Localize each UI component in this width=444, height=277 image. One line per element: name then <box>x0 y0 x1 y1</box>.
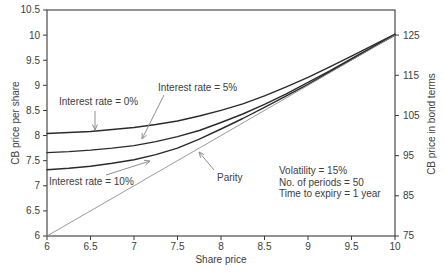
y-left-tick-label: 6 <box>34 230 40 241</box>
x-tick-label: 9.5 <box>345 241 359 252</box>
x-tick-label: 7.5 <box>171 241 185 252</box>
y-right-tick-label: 95 <box>403 150 415 161</box>
x-tick-label: 10 <box>389 241 401 252</box>
x-axis-title: Share price <box>195 254 246 265</box>
convertible-bond-price-chart: 66.577.588.599.51066.577.588.599.51010.5… <box>0 0 444 277</box>
y-axis-title-right: CB price in bond terms <box>426 73 437 175</box>
annotation-interest-rate-10: Interest rate = 10% <box>49 176 134 187</box>
y-left-tick-label: 7.5 <box>26 155 40 166</box>
x-tick-label: 9 <box>305 241 311 252</box>
series-line-interest-rate-5- <box>47 35 395 153</box>
y-left-tick-label: 8.5 <box>26 105 40 116</box>
y-left-tick-label: 10.5 <box>21 4 41 15</box>
volatility-line: Volatility = 15% <box>279 165 381 177</box>
x-tick-label: 6.5 <box>84 241 98 252</box>
annotation-parity: Parity <box>217 172 243 183</box>
annotation-arrow-interest5 <box>142 95 164 139</box>
annotation-arrow-parity <box>199 152 214 170</box>
y-left-tick-label: 9 <box>34 80 40 91</box>
y-right-tick-label: 105 <box>403 110 420 121</box>
series-line-parity <box>47 35 395 236</box>
model-parameters-note: Volatility = 15% No. of periods = 50 Tim… <box>279 165 381 200</box>
x-tick-label: 8.5 <box>258 241 272 252</box>
y-left-tick-label: 7 <box>34 180 40 191</box>
y-right-tick-label: 125 <box>403 30 420 41</box>
chart-plot-area: 66.577.588.599.51066.577.588.599.51010.5… <box>0 0 444 277</box>
x-tick-label: 7 <box>131 241 137 252</box>
x-tick-label: 6 <box>44 241 50 252</box>
annotation-interest-rate-5: Interest rate = 5% <box>158 82 237 93</box>
x-tick-label: 8 <box>218 241 224 252</box>
y-axis-title-left: CB price per share <box>10 81 21 164</box>
periods-line: No. of periods = 50 <box>279 177 381 189</box>
y-left-tick-label: 9.5 <box>26 55 40 66</box>
expiry-line: Time to expiry = 1 year <box>279 188 381 200</box>
y-right-tick-label: 115 <box>403 70 419 81</box>
annotation-arrow-interest10-head <box>144 160 150 161</box>
y-right-tick-label: 85 <box>403 190 415 201</box>
y-left-tick-label: 8 <box>34 130 40 141</box>
y-left-tick-label: 10 <box>29 30 41 41</box>
annotation-interest-rate-0: Interest rate = 0% <box>59 96 138 107</box>
y-left-tick-label: 6.5 <box>26 205 40 216</box>
y-right-tick-label: 75 <box>403 230 415 241</box>
